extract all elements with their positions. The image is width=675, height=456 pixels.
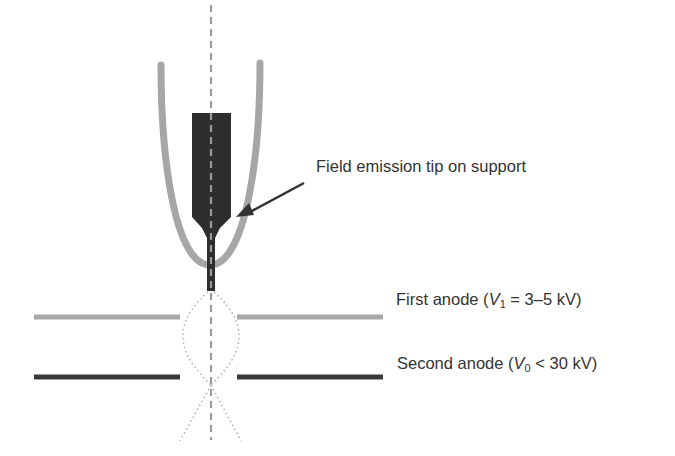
field-emission-gun-diagram — [0, 0, 675, 456]
second-anode-var: V — [514, 354, 525, 372]
first-anode-label: First anode (V1 = 3–5 kV) — [396, 291, 581, 310]
second-anode-suffix: < 30 kV) — [531, 354, 598, 372]
first-anode-var: V — [489, 290, 500, 308]
first-anode-suffix: = 3–5 kV) — [506, 290, 582, 308]
tip-pointer-arrow — [250, 183, 304, 212]
second-anode-prefix: Second anode ( — [397, 354, 514, 372]
first-anode-prefix: First anode ( — [396, 290, 489, 308]
second-anode-label: Second anode (V0 < 30 kV) — [397, 355, 597, 374]
tip-label: Field emission tip on support — [316, 158, 526, 175]
